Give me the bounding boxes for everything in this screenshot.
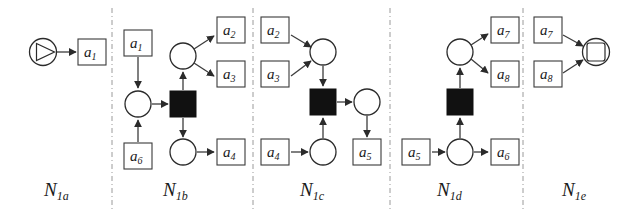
edge-a2-to-place [291, 35, 311, 47]
panel-label-n1c: N1c [299, 179, 325, 203]
panel-label-n1e: N1e [561, 179, 587, 203]
transition-n1c [310, 89, 336, 115]
edge-place-to-a7 [471, 34, 488, 45]
place-left-merge [125, 91, 151, 117]
activity-a3-input: a3 [261, 61, 289, 87]
activity-a7-input: a7 [534, 17, 562, 43]
activity-a1: a1 [78, 39, 106, 65]
panel-n1d: a5 a6 a7 [402, 17, 519, 203]
edge-place-to-a2 [194, 36, 214, 49]
activity-a2-input: a2 [261, 17, 289, 43]
place-right-output [354, 89, 380, 115]
place-bottom [170, 139, 196, 165]
place-top-merge [310, 39, 336, 65]
place-top-split [170, 43, 196, 69]
panel-n1b: a1 a6 [124, 17, 245, 203]
place-bottom-input [310, 139, 336, 165]
place-bottom-n1d [447, 139, 473, 165]
panel-n1e: a7 a8 N1e [534, 17, 610, 203]
activity-a1-sub: 1 [92, 51, 97, 62]
end-circle-square-icon [583, 39, 610, 66]
activity-a4-input: a4 [261, 139, 289, 165]
panel-n1a: a1 N1a [30, 39, 107, 204]
edge-a8-to-end [563, 60, 583, 73]
activity-a6-input: a6 [124, 143, 152, 169]
activity-a3-output: a3 [217, 61, 245, 87]
edge-a7-to-end [563, 35, 583, 46]
place-top-split-n1d [447, 39, 473, 65]
edge-a3-to-place [291, 61, 311, 76]
edge-place-to-a3 [194, 63, 214, 76]
activity-a4-output: a4 [217, 139, 245, 165]
panel-label-n1d: N1d [436, 179, 463, 203]
activity-a8-input: a8 [534, 61, 562, 87]
start-circle-triangle-icon [30, 39, 57, 66]
activity-a5-input: a5 [402, 139, 430, 165]
transition-n1b [170, 91, 196, 117]
activity-a1-base: a [84, 44, 92, 60]
activity-a7-output: a7 [491, 17, 519, 43]
panel-label-n1a: N1a [43, 179, 69, 203]
activity-a2-output: a2 [217, 17, 245, 43]
activity-a5-output: a5 [353, 139, 381, 165]
panel-label-n1b: N1b [162, 179, 188, 203]
edge-place-to-a8 [471, 59, 488, 73]
activity-a8-output: a8 [491, 61, 519, 87]
activity-a1-input: a1 [124, 30, 152, 56]
transition-n1d [447, 89, 473, 115]
activity-a6-output: a6 [491, 139, 519, 165]
panel-n1c: a2 a3 a4 [261, 17, 381, 203]
petri-net-figure: a1 N1a a1 a6 [0, 0, 643, 217]
